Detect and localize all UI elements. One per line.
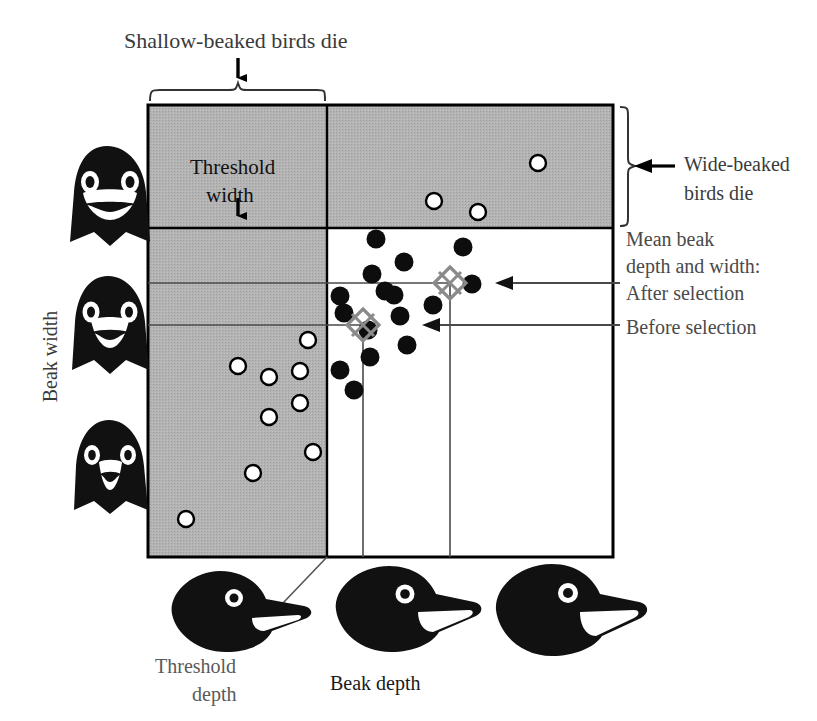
data-point-open <box>292 363 308 379</box>
bird-head-profile-shallow-icon <box>172 571 312 652</box>
threshold-depth-label-line1: Threshold <box>155 655 236 678</box>
x-axis-label: Beak depth <box>330 672 421 695</box>
data-point-filled <box>331 287 350 306</box>
data-point-filled <box>424 296 443 315</box>
beak-selection-diagram: Shallow-beaked birds die Threshold width… <box>0 0 817 721</box>
data-point-open <box>261 369 277 385</box>
wide-beaked-label-line2: birds die <box>684 182 753 205</box>
mean-label-line1: Mean beak <box>626 228 714 251</box>
mean-label-line3: After selection <box>626 282 744 305</box>
y-axis-label: Beak width <box>39 287 62 427</box>
data-point-open <box>245 465 261 481</box>
region-shallow-beaked-die <box>148 228 327 557</box>
data-point-filled <box>376 282 395 301</box>
threshold-width-label-line1: Threshold <box>190 155 275 180</box>
bird-head-profile-medium-icon <box>336 566 482 652</box>
data-point-filled <box>361 348 380 367</box>
mean-label-line2: depth and width: <box>626 255 760 278</box>
data-point-open <box>305 444 321 460</box>
before-selection-label: Before selection <box>626 316 757 339</box>
bird-head-front-medium-icon <box>72 276 149 374</box>
wide-beaked-arrow <box>634 159 675 173</box>
data-point-filled <box>345 381 364 400</box>
data-point-open <box>300 332 316 348</box>
data-point-filled <box>331 361 350 380</box>
data-point-filled <box>395 253 414 272</box>
data-point-open <box>178 511 194 527</box>
bird-head-front-narrow-icon <box>74 420 148 514</box>
bird-head-profile-deep-icon <box>496 564 647 656</box>
shallow-beaked-annotation <box>150 58 325 101</box>
bird-head-front-wide-icon <box>70 146 150 246</box>
figure-title-shallow-die: Shallow-beaked birds die <box>124 28 348 54</box>
wide-beaked-annotation <box>620 107 675 226</box>
threshold-width-label-line2: width <box>206 183 254 208</box>
data-point-open <box>530 155 546 171</box>
before-selection-arrow <box>422 318 620 332</box>
data-point-filled <box>367 230 386 249</box>
data-point-open <box>261 409 277 425</box>
threshold-depth-label-line2: depth <box>192 683 236 706</box>
top-curly-brace <box>150 83 325 101</box>
data-point-open <box>426 193 442 209</box>
data-point-filled <box>398 336 417 355</box>
data-point-open <box>470 204 486 220</box>
data-point-filled <box>454 238 473 257</box>
after-selection-arrow <box>495 276 620 290</box>
data-point-filled <box>391 307 410 326</box>
wide-beaked-label-line1: Wide-beaked <box>684 153 790 176</box>
data-point-open <box>292 395 308 411</box>
right-curly-brace <box>620 107 635 226</box>
data-point-open <box>230 358 246 374</box>
figure-canvas <box>0 0 817 721</box>
data-point-filled <box>363 265 382 284</box>
